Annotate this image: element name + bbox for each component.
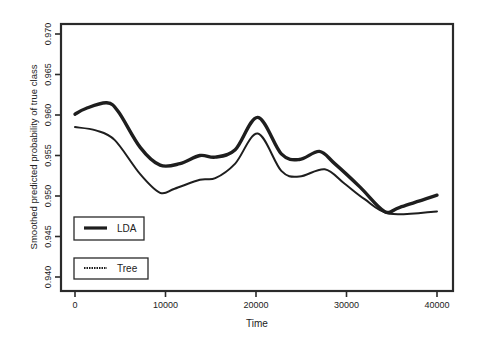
x-tick-label: 0: [72, 300, 77, 310]
y-tick-label: 0.955: [43, 144, 53, 167]
series-tree-line: [75, 127, 437, 214]
plot-frame: [61, 24, 453, 291]
y-tick-label: 0.965: [43, 63, 53, 86]
x-tick-label: 20000: [243, 300, 268, 310]
y-tick-label: 0.945: [43, 225, 53, 248]
y-axis: 0.9400.9450.9500.9550.9600.9650.970: [43, 23, 61, 289]
legend-item-lda: LDA: [74, 217, 144, 240]
x-axis-title: Time: [246, 318, 268, 329]
x-axis: 010000200003000040000: [72, 291, 449, 310]
y-tick-label: 0.960: [43, 104, 53, 127]
x-tick-label: 10000: [153, 300, 178, 310]
y-tick-label: 0.940: [43, 266, 53, 289]
legend-label-lda: LDA: [117, 223, 137, 234]
line-chart: 0.9400.9450.9500.9550.9600.9650.970 0100…: [0, 0, 477, 345]
x-tick-label: 30000: [334, 300, 359, 310]
legend-item-tree: Tree: [74, 258, 148, 279]
chart: 0.9400.9450.9500.9550.9600.9650.970 0100…: [0, 0, 477, 345]
y-tick-label: 0.970: [43, 23, 53, 46]
y-tick-label: 0.950: [43, 185, 53, 208]
x-tick-label: 40000: [424, 300, 449, 310]
legend-label-tree: Tree: [117, 263, 138, 274]
y-axis-title: Smoothed predicted probability of true c…: [28, 64, 39, 249]
